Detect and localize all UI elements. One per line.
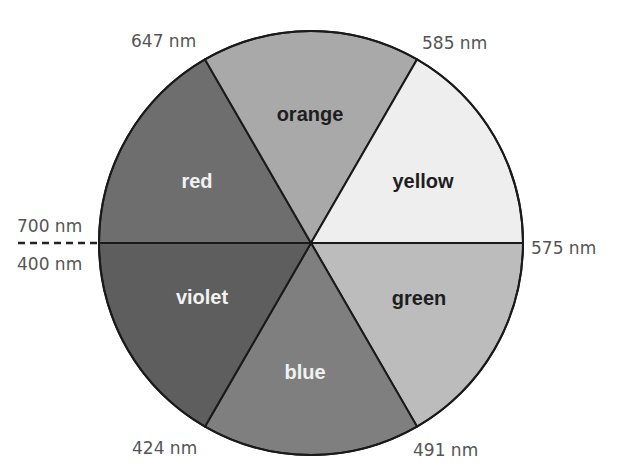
color-wheel-diagram: redorangeyellowgreenblueviolet 647 nm585… — [0, 0, 626, 475]
slice-label-blue: blue — [284, 361, 325, 383]
wavelength-label: 700 nm — [17, 216, 82, 236]
wavelength-label: 424 nm — [132, 438, 197, 458]
wavelength-label: 647 nm — [131, 31, 196, 51]
wavelength-label: 575 nm — [531, 238, 596, 258]
wavelength-label: 400 nm — [17, 254, 82, 274]
wavelength-label: 585 nm — [422, 33, 487, 53]
slice-label-orange: orange — [277, 103, 344, 125]
slice-label-red: red — [181, 170, 212, 192]
slice-label-yellow: yellow — [392, 170, 454, 192]
slice-label-violet: violet — [176, 286, 229, 308]
wavelength-label: 491 nm — [413, 440, 478, 460]
wheel-slices — [99, 31, 523, 455]
slice-label-green: green — [392, 287, 446, 309]
